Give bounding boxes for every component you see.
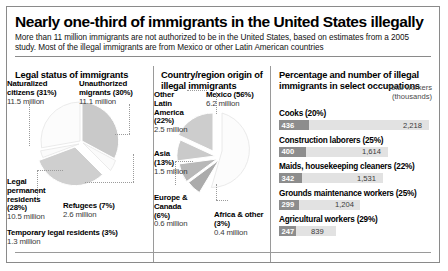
occupation-row: Construction laborers (25%) 400 1,614: [279, 136, 432, 157]
panel-occupations: Percentage and number of illegal immigra…: [270, 66, 439, 262]
leader-naturalized: [29, 104, 30, 146]
occupation-name: Grounds maintenance workers (25%): [279, 189, 432, 199]
occupation-name: Cooks (20%): [279, 109, 432, 119]
occupation-row: Agricultural workers (29%) 247 839: [279, 215, 432, 236]
origin-label-other-latin-america: Other Latin America (22%) 2.5 million: [154, 91, 190, 135]
origin-label-europe-canada: Europe & Canada (6%) 0.6 million: [154, 194, 198, 229]
header: Nearly one-third of immigrants in the Un…: [7, 7, 439, 52]
occupation-row: Maids, housekeeping cleaners (22%) 342 1…: [279, 162, 432, 183]
occupation-bar: 247 839: [279, 226, 432, 236]
occupation-name: Agricultural workers (29%): [279, 215, 432, 225]
bar-illegal-value: 400: [282, 147, 295, 156]
bar-total-value: 1,531: [357, 174, 376, 183]
leader-unauthorized-h: [115, 134, 130, 135]
panels-container: Legal status of immigrants: [7, 66, 439, 262]
bar-illegal-value: 247: [282, 227, 295, 236]
occupation-row: Cooks (20%) 436 2,218: [279, 109, 432, 130]
bar-total-value: 2,218: [403, 121, 422, 130]
infographic-frame: Nearly one-third of immigrants in the Un…: [6, 6, 440, 263]
footer-divider: [15, 252, 431, 253]
page-subtitle: More than 11 million immigrants are not …: [15, 33, 431, 52]
occupation-bar: 436 2,218: [279, 120, 432, 130]
legal-status-label-unauthorized: Unauthorized migrants (30%) 11.1 million: [79, 80, 143, 106]
bar-total-value: 1,614: [362, 147, 381, 156]
leader-temporary-h: [37, 170, 63, 171]
bar-total-value: 839: [311, 227, 324, 236]
panel-legal-status: Legal status of immigrants: [7, 66, 153, 262]
legal-status-pie-chart: [37, 98, 123, 184]
origin-label-asia: Asia (13%) 1.5 million: [154, 150, 190, 176]
panel-origin: Country/region origin of illegal immigra…: [153, 66, 270, 262]
origin-label-africa-other: Africa & other (3%) 0.4 million: [214, 211, 264, 237]
pie-slice-temporary-legal-residents: [36, 101, 122, 187]
occupations-list: Cooks (20%) 436 2,218 Construction labor…: [279, 109, 432, 236]
leader-africa-v: [216, 184, 217, 200]
panel-origin-title: Country/region origin of illegal immigra…: [161, 70, 264, 92]
leader-refugees: [133, 154, 134, 182]
bar-illegal-value: 299: [282, 200, 295, 209]
bar-illegal-value: 436: [282, 121, 295, 130]
bar-total-value: 1,204: [335, 200, 354, 209]
occupation-bar: 342 1,531: [279, 173, 432, 183]
legal-status-label-naturalized: Naturalized citizens (31%) 11.5 million: [7, 80, 69, 106]
page-title: Nearly one-third of immigrants in the Un…: [15, 13, 431, 30]
leader-other-latin-h: [187, 90, 207, 91]
occupation-row: Grounds maintenance workers (25%) 299 1,…: [279, 189, 432, 210]
occupations-column-header: Total workers (thousands): [387, 84, 432, 101]
header-divider: [15, 56, 431, 57]
occupation-name: Maids, housekeeping cleaners (22%): [279, 162, 432, 172]
occupation-bar: 400 1,614: [279, 147, 432, 157]
legal-status-label-temporary: Temporary legal residents (3%) 1.3 milli…: [7, 229, 147, 247]
occupations-column-header-line2: (thousands): [387, 93, 432, 102]
leader-unauthorized: [129, 104, 130, 134]
occupation-name: Construction laborers (25%): [279, 136, 432, 146]
origin-pie-chart: [178, 109, 262, 193]
occupation-bar: 299 1,204: [279, 200, 432, 210]
origin-label-mexico: Mexico (56%) 6.2 million: [206, 91, 266, 109]
legal-status-label-refugees: Refugees (7%) 2.6 million: [63, 202, 135, 220]
legal-status-label-permanent: Legal permanent residents (28%) 10.5 mil…: [7, 178, 57, 222]
bar-illegal-value: 342: [282, 174, 295, 183]
leader-africa-h: [216, 200, 228, 201]
leader-refugees-h: [85, 182, 134, 183]
